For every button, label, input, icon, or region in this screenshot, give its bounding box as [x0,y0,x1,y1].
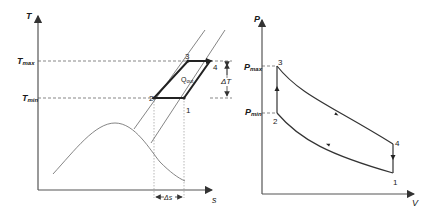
pv-point-4: 4 [395,139,400,148]
pv-point-3: 3 [278,58,283,67]
p-min-label: Pmin [245,107,262,117]
delta-s-label: Δs [163,194,173,201]
thermo-cycle-figure: T s Tmax Tmin 1 2 3 4 Qout ΔT [0,0,440,213]
t-max-label: Tmax [17,56,35,66]
ts-point-3: 3 [185,52,190,61]
p-max-label: Pmax [244,62,263,72]
delta-t-label: ΔT [220,77,232,86]
t-axis-label: T [26,11,33,21]
p-axis-label: P [254,14,261,24]
t-min-label: Tmin [22,93,39,103]
ts-point-4: 4 [213,63,218,72]
pv-diagram: P V Pmax Pmin 1 2 3 4 [244,14,419,208]
saturation-dome [53,123,185,181]
ts-point-1: 1 [186,106,191,115]
pv-compression [277,113,393,173]
arrow-4-1 [391,155,396,160]
pv-expansion [277,66,393,144]
s-axis-label: s [212,195,217,205]
arrow-2-3 [275,86,280,91]
arrow-1-2 [325,142,330,146]
q-out-label: Qout [181,76,194,84]
arrow-3-4 [334,112,339,117]
pv-point-1: 1 [393,178,398,187]
ts-point-2: 2 [149,94,154,103]
isobar-low [151,30,225,143]
ts-diagram: T s Tmax Tmin 1 2 3 4 Qout ΔT [17,11,232,205]
v-axis-label: V [412,198,419,208]
pv-point-2: 2 [273,117,278,126]
